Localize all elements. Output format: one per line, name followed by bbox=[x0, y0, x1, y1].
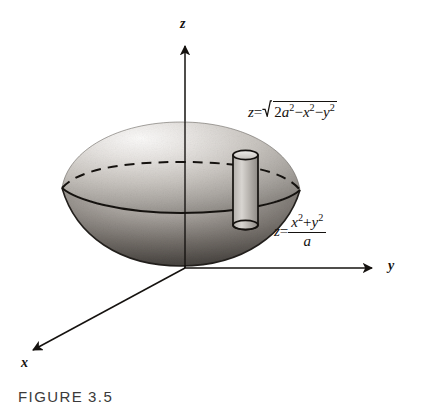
y-axis-label: y bbox=[388, 258, 394, 274]
x-axis bbox=[33, 268, 185, 350]
cylindrical-shell-element bbox=[233, 150, 258, 229]
equation-sphere-equals: = bbox=[254, 104, 262, 120]
fraction-numerator: x2+y2 bbox=[288, 213, 326, 233]
parab-x-var: x bbox=[291, 214, 298, 230]
radical-sign-icon bbox=[262, 100, 272, 117]
equation-paraboloid: z=x2+y2a bbox=[274, 214, 326, 251]
equation-sphere: z=2a2−x2−y2 bbox=[248, 100, 337, 121]
sphere-y-var: y bbox=[323, 104, 330, 120]
solid-upper-surface bbox=[62, 122, 300, 213]
figure-caption-number: 3.5 bbox=[88, 388, 113, 405]
x-axis-label: x bbox=[21, 355, 28, 371]
radicand: 2a2−x2−y2 bbox=[273, 101, 337, 121]
cylinder-top-cap bbox=[233, 150, 258, 159]
sphere-minus-1: − bbox=[294, 104, 302, 120]
cylinder-body bbox=[233, 155, 258, 230]
equation-paraboloid-equals: = bbox=[280, 223, 288, 239]
figure-drawing-canvas bbox=[0, 0, 423, 419]
radical-group: 2a2−x2−y2 bbox=[262, 100, 337, 121]
z-axis-label: z bbox=[180, 16, 185, 32]
figure-caption: FIGURE3.5 bbox=[18, 388, 113, 405]
sphere-coefficient: 2 bbox=[274, 104, 282, 120]
solid-of-revolution bbox=[62, 122, 300, 266]
figure-3-5: z=2a2−x2−y2 z=x2+y2a z y x FIGURE3.5 bbox=[0, 0, 423, 419]
sphere-x-var: x bbox=[303, 104, 310, 120]
parab-y-exponent: 2 bbox=[318, 212, 323, 223]
sphere-y-exponent: 2 bbox=[330, 102, 335, 113]
parab-plus: + bbox=[303, 214, 311, 230]
fraction-group: x2+y2a bbox=[288, 213, 326, 250]
figure-caption-label: FIGURE bbox=[18, 388, 83, 405]
sphere-minus-2: − bbox=[315, 104, 323, 120]
fraction-denominator: a bbox=[288, 233, 326, 250]
